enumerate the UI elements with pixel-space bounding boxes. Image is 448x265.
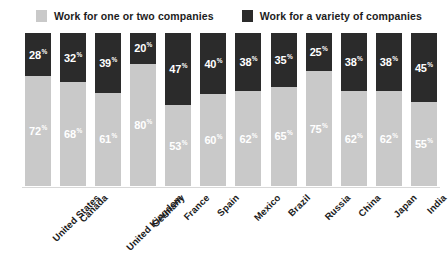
category-label-slot: China: [341, 190, 367, 260]
percent-sign: %: [41, 124, 47, 131]
bar-segment-light: 53%: [165, 105, 191, 186]
category-label-india: India: [424, 192, 448, 216]
chart-legend: Work for one or two companies Work for a…: [0, 6, 442, 26]
category-label-slot: Germany: [130, 190, 156, 260]
bar-segment-value: 55%: [415, 138, 433, 150]
bar-india[interactable]: 45%55%: [411, 33, 437, 186]
percent-sign: %: [322, 122, 328, 129]
legend-label-dark: Work for a variety of companies: [260, 10, 422, 22]
percent-sign: %: [252, 55, 258, 62]
category-label-slot: Japan: [376, 190, 402, 260]
percent-sign: %: [217, 57, 223, 64]
category-label-slot: India: [411, 190, 437, 260]
bar-segment-value: 38%: [345, 56, 363, 68]
category-label-slot: Russia: [306, 190, 332, 260]
plot-area: 28%72%32%68%39%61%20%80%47%53%40%60%38%6…: [25, 33, 437, 186]
bar-segment-dark: 39%: [95, 33, 121, 93]
category-label-slot: Spain: [200, 190, 226, 260]
bar-segment-value: 40%: [204, 58, 222, 70]
percent-sign: %: [392, 55, 398, 62]
bar-segment-value: 68%: [64, 128, 82, 140]
bar-segment-value: 60%: [204, 134, 222, 146]
bar-segment-light: 62%: [341, 91, 367, 186]
percent-sign: %: [322, 45, 328, 52]
percent-sign: %: [112, 56, 118, 63]
category-axis-labels: United StatesCanadaUnited KingdomGermany…: [25, 190, 437, 260]
percent-sign: %: [392, 132, 398, 139]
bar-segment-value: 28%: [29, 49, 47, 61]
bar-segment-dark: 47%: [165, 33, 191, 105]
bar-segment-dark: 45%: [411, 33, 437, 102]
category-label-slot: Mexico: [235, 190, 261, 260]
bar-segment-value: 62%: [380, 133, 398, 145]
percent-sign: %: [287, 129, 293, 136]
percent-sign: %: [357, 55, 363, 62]
percent-sign: %: [147, 118, 153, 125]
percent-sign: %: [76, 127, 82, 134]
bar-segment-value: 80%: [134, 119, 152, 131]
legend-item-light: Work for one or two companies: [36, 10, 214, 22]
bar-segment-light: 80%: [130, 64, 156, 186]
bar-segment-dark: 38%: [235, 33, 261, 91]
bar-japan[interactable]: 38%62%: [376, 33, 402, 186]
percent-sign: %: [252, 132, 258, 139]
bar-segment-light: 62%: [235, 91, 261, 186]
bar-segment-light: 55%: [411, 102, 437, 186]
bar-segment-light: 60%: [200, 94, 226, 186]
bar-segment-value: 75%: [310, 123, 328, 135]
bar-segment-dark: 20%: [130, 33, 156, 64]
legend-swatch-dark-icon: [242, 10, 253, 22]
bar-segment-value: 47%: [169, 63, 187, 75]
percent-sign: %: [427, 137, 433, 144]
bar-segment-value: 62%: [240, 133, 258, 145]
bar-china[interactable]: 38%62%: [341, 33, 367, 186]
bar-segment-value: 62%: [345, 133, 363, 145]
bar-segment-value: 38%: [380, 56, 398, 68]
bar-segment-value: 35%: [275, 54, 293, 66]
percent-sign: %: [182, 139, 188, 146]
bar-segment-dark: 32%: [60, 33, 86, 82]
percent-sign: %: [182, 62, 188, 69]
legend-swatch-light-icon: [36, 10, 47, 22]
axis-baseline: [22, 187, 440, 188]
percent-sign: %: [427, 61, 433, 68]
bar-germany[interactable]: 20%80%: [130, 33, 156, 186]
bar-brazil[interactable]: 35%65%: [271, 33, 297, 186]
bar-segment-light: 61%: [95, 93, 121, 186]
bar-united-kingdom[interactable]: 39%61%: [95, 33, 121, 186]
bar-segment-dark: 40%: [200, 33, 226, 94]
bar-spain[interactable]: 40%60%: [200, 33, 226, 186]
percent-sign: %: [357, 132, 363, 139]
percent-sign: %: [147, 41, 153, 48]
bar-segment-dark: 38%: [341, 33, 367, 91]
category-label-slot: United States: [25, 190, 51, 260]
bar-canada[interactable]: 32%68%: [60, 33, 86, 186]
bar-segment-value: 25%: [310, 46, 328, 58]
percent-sign: %: [287, 53, 293, 60]
bar-segment-light: 75%: [306, 71, 332, 186]
bar-segment-value: 61%: [99, 133, 117, 145]
bar-segment-value: 39%: [99, 57, 117, 69]
bar-mexico[interactable]: 38%62%: [235, 33, 261, 186]
bar-segment-value: 32%: [64, 52, 82, 64]
legend-item-dark: Work for a variety of companies: [242, 10, 422, 22]
legend-label-light: Work for one or two companies: [54, 10, 214, 22]
bar-france[interactable]: 47%53%: [165, 33, 191, 186]
bar-segment-value: 53%: [169, 140, 187, 152]
bar-segment-value: 45%: [415, 62, 433, 74]
percent-sign: %: [217, 133, 223, 140]
bar-united-states[interactable]: 28%72%: [25, 33, 51, 186]
bar-segment-light: 65%: [271, 87, 297, 186]
category-label-slot: France: [165, 190, 191, 260]
bar-segment-dark: 38%: [376, 33, 402, 91]
bar-segment-dark: 25%: [306, 33, 332, 71]
percent-sign: %: [41, 48, 47, 55]
bar-segment-value: 20%: [134, 42, 152, 54]
bar-segment-value: 38%: [240, 56, 258, 68]
bar-segment-value: 65%: [275, 130, 293, 142]
bar-russia[interactable]: 25%75%: [306, 33, 332, 186]
bar-segment-dark: 35%: [271, 33, 297, 87]
category-label-slot: Brazil: [271, 190, 297, 260]
bar-segment-dark: 28%: [25, 33, 51, 76]
